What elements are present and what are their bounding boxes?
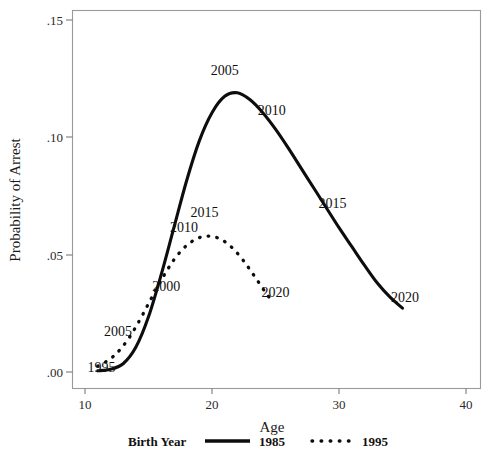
y-tick-label-05: .05 <box>47 248 63 263</box>
chart-figure: .15 .10 .05 .00 10 20 30 40 Probability … <box>0 0 488 454</box>
point-label-1985-2005-3: 2005 <box>211 63 239 78</box>
chart-background <box>0 0 488 454</box>
y-tick-label-00: .00 <box>47 365 63 380</box>
probability-of-arrest-line-chart: .15 .10 .05 .00 10 20 30 40 Probability … <box>0 0 488 454</box>
point-label-1985-2015-5: 2015 <box>319 196 347 211</box>
x-tick-label-10: 10 <box>79 397 92 412</box>
point-label-1995-2015-1: 2015 <box>190 205 218 220</box>
legend-title: Birth Year <box>128 434 187 449</box>
point-label-1985-1995-0: 1995 <box>88 360 116 375</box>
y-tick-label-15: .15 <box>47 13 63 28</box>
x-tick-label-30: 30 <box>333 397 346 412</box>
point-label-1995-2020-2: 2020 <box>262 285 290 300</box>
legend-label-1985: 1985 <box>259 434 286 449</box>
point-label-1985-2010-4: 2010 <box>258 103 286 118</box>
y-axis-title: Probability of Arrest <box>7 138 23 262</box>
legend-label-1995: 1995 <box>362 434 389 449</box>
x-axis-title: Age <box>260 419 285 435</box>
point-label-1995-2005-0: 2005 <box>104 324 132 339</box>
x-tick-label-40: 40 <box>460 397 473 412</box>
point-label-1985-2000-1: 2000 <box>152 279 180 294</box>
x-tick-label-20: 20 <box>206 397 219 412</box>
point-label-1985-2010-2: 2010 <box>170 220 198 235</box>
y-tick-label-10: .10 <box>47 130 63 145</box>
point-label-1985-2020-6: 2020 <box>391 290 419 305</box>
